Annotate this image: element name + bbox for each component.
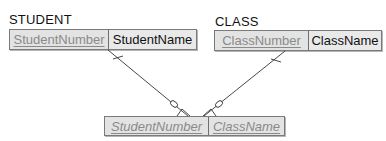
class-entity-label: CLASS xyxy=(215,14,259,29)
optional-zero-oval-icon xyxy=(214,99,223,108)
intersection-entity-table[interactable]: StudentNumber ClassName xyxy=(104,116,285,136)
student-entity-label: STUDENT xyxy=(9,12,72,27)
student-number-key-cell[interactable]: StudentNumber xyxy=(10,30,108,49)
optional-zero-oval-icon xyxy=(169,99,178,108)
mandatory-one-tick-icon xyxy=(113,56,123,59)
intersection-class-name-key-cell[interactable]: ClassName xyxy=(208,117,284,135)
student-entity-table[interactable]: StudentNumber StudentName xyxy=(9,29,197,50)
mandatory-one-tick-icon xyxy=(271,59,281,62)
crows-foot-many-icon xyxy=(203,109,216,116)
class-name-cell[interactable]: ClassName xyxy=(308,31,381,50)
class-entity-table[interactable]: ClassNumber ClassName xyxy=(214,30,382,51)
class-number-key-cell[interactable]: ClassNumber xyxy=(215,31,308,50)
crows-foot-many-icon xyxy=(177,109,190,116)
class-relationship-line[interactable] xyxy=(203,51,285,116)
student-name-cell[interactable]: StudentName xyxy=(108,30,196,49)
intersection-student-number-key-cell[interactable]: StudentNumber xyxy=(105,117,208,135)
student-relationship-line[interactable] xyxy=(108,50,190,116)
